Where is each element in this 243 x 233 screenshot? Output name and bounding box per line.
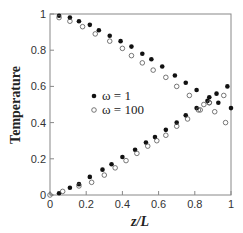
data-point [88,175,93,180]
scatter-chart: 00.20.40.60.81 00.20.40.60.81 z/L Temper… [0,0,243,233]
data-point [113,166,118,171]
data-point [187,93,192,98]
x-tick-label: 0.2 [79,198,94,210]
y-tick-label: 0.4 [31,117,46,129]
data-point [185,117,190,122]
y-tick-label: 0.8 [31,44,46,56]
data-point [164,133,169,138]
data-point [173,73,178,78]
data-point [216,100,221,105]
data-point [154,138,159,143]
data-point [194,88,199,93]
data-point [118,39,123,44]
data-point [60,189,65,194]
data-point [164,128,169,133]
x-tick-label: 0.4 [115,198,130,210]
y-tick-label: 0.2 [31,153,46,165]
y-tick-label: 0 [40,189,46,201]
data-point [68,185,73,190]
y-tick-label: 0.6 [31,80,46,92]
data-point [97,28,102,33]
data-point [89,180,94,185]
data-point [109,162,114,167]
legend-open-marker-icon [92,108,97,113]
data-point [145,144,150,149]
data-point [160,64,165,69]
data-point [164,75,169,80]
y-axis-title: Temperature [8,66,23,144]
data-point [151,68,156,73]
x-tick-label: 0 [47,198,53,210]
data-point [129,44,134,49]
data-point [100,167,105,172]
x-tick-label: 0.6 [151,198,166,210]
data-point [102,173,107,178]
data-point [223,120,228,125]
y-tick-label: 1 [40,8,46,20]
x-axis-ticks: 00.20.40.60.81 [47,191,234,210]
data-point [88,23,93,28]
data-point [140,61,145,66]
data-point [212,109,217,114]
data-point [229,106,234,111]
legend-item-omega-1: ω = 1 [102,88,131,103]
data-point [124,158,129,163]
data-point [120,155,125,160]
x-tick-label: 1 [228,198,234,210]
data-point [221,93,226,98]
data-point [129,53,134,58]
legend-item-omega-100: ω = 100 [102,102,144,117]
data-point [77,19,82,24]
data-point [107,39,112,44]
x-axis-title: z/L [130,214,149,229]
data-point [174,84,179,89]
data-point [225,84,230,89]
data-point [202,102,207,107]
data-point [107,33,112,38]
y-axis-ticks: 00.20.40.60.81 [31,8,54,201]
legend: ω = 1 ω = 100 [92,88,144,117]
data-point [214,91,219,96]
data-point [120,46,125,51]
legend-filled-marker-icon [92,94,97,99]
data-point [140,52,145,57]
data-point [149,57,154,62]
x-tick-label: 0.8 [187,198,202,210]
data-point [135,151,140,156]
data-point [93,32,98,37]
data-point [80,24,85,29]
data-point [183,80,188,85]
